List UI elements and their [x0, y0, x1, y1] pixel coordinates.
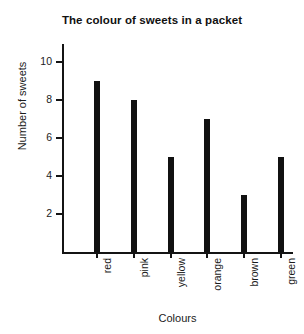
y-axis-title: Number of sweets: [16, 36, 28, 176]
x-axis-label-pink: pink: [139, 258, 150, 318]
y-axis-tick: [56, 61, 63, 63]
bar-yellow: [168, 157, 174, 252]
y-axis-tick-label: 2: [28, 208, 52, 218]
y-axis-tick: [56, 137, 63, 139]
x-axis-label-red: red: [102, 258, 113, 318]
y-axis-tick: [56, 213, 63, 215]
x-axis-tick: [170, 252, 172, 258]
y-axis-tick-label: 4: [28, 170, 52, 180]
bar-chart: The colour of sweets in a packet 246810 …: [0, 0, 304, 334]
x-axis-title: Colours: [62, 312, 293, 324]
chart-title: The colour of sweets in a packet: [0, 14, 304, 26]
x-axis-tick: [206, 252, 208, 258]
y-axis-tick: [56, 99, 63, 101]
y-axis-tick-label: 6: [28, 132, 52, 142]
y-axis-tick-label: 10: [28, 56, 52, 66]
x-axis-label-orange: orange: [212, 258, 223, 318]
bar-orange: [204, 119, 210, 252]
x-axis-tick: [280, 252, 282, 258]
x-axis-tick: [96, 252, 98, 258]
x-axis-tick: [243, 252, 245, 258]
y-axis-line: [62, 44, 64, 254]
bar-brown: [241, 195, 247, 252]
x-axis-label-brown: brown: [249, 258, 260, 318]
bar-pink: [131, 100, 137, 252]
y-axis-tick: [56, 175, 63, 177]
bar-green: [278, 157, 284, 252]
x-axis-tick: [133, 252, 135, 258]
bar-red: [94, 81, 100, 252]
x-axis-label-green: green: [286, 258, 297, 318]
y-axis-tick-label: 8: [28, 94, 52, 104]
x-axis-label-yellow: yellow: [176, 258, 187, 318]
